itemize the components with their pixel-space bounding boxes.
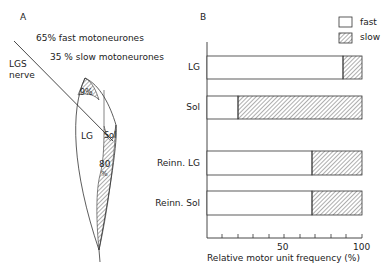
x-tick-100: 100	[353, 242, 370, 252]
bar-sol-fast	[207, 96, 238, 119]
bar-reinn-sol-slow	[312, 191, 362, 215]
x-axis-label: Relative motor unit frequency (%)	[207, 253, 360, 263]
nerve-label-1: LGS	[9, 59, 27, 69]
fast-motoneurones-text: 65% fast motoneurones	[36, 33, 144, 43]
legend-fast-swatch	[339, 17, 352, 27]
x-ticks	[222, 234, 362, 238]
bars	[207, 56, 362, 215]
category-label-sol: Sol	[186, 102, 200, 112]
bar-reinn-lg-fast	[207, 151, 312, 175]
panel-a-label: A	[20, 12, 26, 22]
legend-slow-label: slow	[360, 32, 380, 42]
bar-lg-fast	[207, 56, 343, 79]
panel-b-label: B	[200, 12, 206, 22]
slow-motoneurones-text: 35 % slow motoneurones	[50, 52, 164, 62]
soleus-region	[97, 125, 116, 250]
muscle-lg-label: LG	[81, 131, 93, 141]
pct-bottom-2: %	[101, 170, 108, 178]
figure: A 65% fast motoneurones 35 % slow motone…	[0, 0, 386, 267]
category-label-reinn-sol: Reinn. Sol	[155, 198, 200, 208]
category-label-reinn-lg: Reinn. LG	[157, 158, 200, 168]
bar-reinn-sol-fast	[207, 191, 312, 215]
x-tick-50: 50	[277, 242, 288, 252]
legend-slow-swatch	[339, 33, 352, 43]
muscle-sol-label: Sol	[104, 131, 116, 140]
bar-sol-slow	[238, 96, 362, 119]
pct-top: 9%	[80, 88, 93, 97]
category-label-lg: LG	[188, 62, 200, 72]
bar-reinn-lg-slow	[312, 151, 362, 175]
legend-fast-label: fast	[360, 17, 377, 27]
bar-lg-slow	[343, 56, 362, 79]
nerve-label-2: nerve	[9, 70, 35, 80]
pct-bottom-1: 80	[99, 159, 110, 169]
